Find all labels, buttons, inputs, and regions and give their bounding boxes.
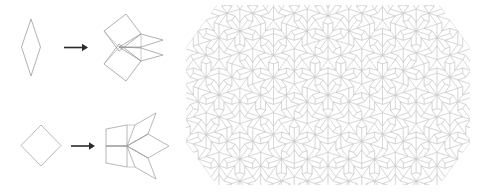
tiling-edge [442, 77, 450, 84]
tiling-edge [450, 44, 458, 55]
tiling-edge [261, 38, 269, 45]
tiling-edge [219, 117, 227, 128]
tiling-edge [362, 156, 375, 163]
tiling-edge [227, 174, 240, 181]
tiling-edge [294, 60, 302, 71]
tiling-edge [349, 119, 362, 126]
tiling-edge [416, 124, 424, 135]
tiling-edge [333, 77, 341, 84]
tiling-edge [382, 184, 395, 191]
tiling-edge [434, 0, 442, 9]
tiling-edge [437, 38, 445, 49]
tiling-edge [286, 166, 294, 177]
tiling-edge [437, 95, 442, 109]
tiling-edge [227, 128, 232, 142]
tiling-edge [299, 0, 307, 9]
tiling-edge [437, 16, 450, 23]
tiling-edge [403, 49, 408, 63]
tiling-edge [206, 135, 211, 149]
tiling-edge [349, 77, 362, 84]
tiling-edge [307, 181, 315, 192]
tiling-edge [227, 38, 235, 49]
tiling-edge [411, 110, 416, 124]
tiling-edge [421, 141, 429, 148]
tiling-edge [214, 46, 219, 60]
tiling-edge [341, 102, 349, 113]
tiling-edge [370, 34, 383, 41]
tiling-edge [357, 49, 362, 63]
tiling-edge [235, 88, 240, 102]
tiling-edge [294, 150, 299, 164]
tiling-edge [328, 16, 341, 23]
tiling-edge [328, 188, 336, 193]
fat-rhombus-decomposition [106, 113, 169, 179]
tiling-edge [274, 6, 279, 20]
tiling-edge [395, 188, 403, 193]
tiling-edge [382, 34, 395, 41]
tiling-edge [240, 20, 248, 31]
tiling-edge [253, 13, 261, 24]
tiling-edge [370, 16, 383, 23]
tiling-edge [336, 6, 349, 13]
tiling-edge [328, 24, 333, 38]
tiling-edge [235, 159, 240, 173]
tiling-edge [395, 152, 400, 166]
tiling-edge [341, 20, 349, 31]
tiling-edge [261, 117, 269, 124]
tiling-edge [274, 124, 282, 135]
fat-rhombus-source [21, 125, 61, 166]
tiling-edge [395, 110, 408, 117]
tiling-edge [390, 6, 403, 13]
tiling-edge [286, 84, 294, 95]
tiling-edge [390, 102, 395, 110]
tiling-edge [190, 102, 198, 109]
tiling-edge [341, 148, 349, 159]
tiling-edge [442, 20, 450, 31]
tiling-edge [240, 148, 248, 159]
tiling-edge [219, 46, 224, 60]
tiling-edge [274, 55, 287, 62]
tiling-edge [382, 135, 395, 142]
tiling-edge [344, 9, 349, 23]
tiling-edge [349, 88, 354, 102]
tiling-edge [437, 31, 450, 38]
tiling-edge [416, 53, 424, 64]
tiling-edge [302, 159, 307, 173]
tiling-edge [416, 137, 429, 144]
tiling-edge [269, 141, 274, 149]
tiling-edge [198, 102, 206, 113]
tiling-edge [437, 24, 442, 38]
tiling-edge [253, 117, 261, 128]
tiling-edge [458, 124, 466, 135]
tiling-edge [349, 152, 357, 159]
tiling-edge [463, 141, 471, 152]
tiling-edge [274, 86, 279, 100]
tiling-edge [248, 49, 253, 63]
tiling-edge [379, 166, 387, 177]
tiling-edge [274, 148, 282, 159]
penrose-tiling-tiles [185, 0, 470, 193]
tiling-edge [437, 141, 445, 152]
tiling-edge [206, 64, 211, 78]
tiling-edge [328, 84, 336, 95]
tiling-edge [349, 31, 354, 45]
tiling-edge [315, 184, 328, 191]
tiling-edge [299, 181, 307, 188]
tiling-edge [315, 20, 323, 31]
tiling-edge [450, 113, 455, 127]
tiling-edge [286, 60, 294, 71]
tiling-edge [266, 124, 274, 135]
tiling-edge [274, 181, 282, 192]
tiling-edge [453, 31, 458, 45]
tiling-edge [261, 188, 269, 193]
tiling-edge [227, 31, 240, 38]
tiling-edge [403, 71, 408, 85]
tiling-edge [458, 151, 463, 159]
tiling-edge [185, 49, 190, 63]
tiling-edge [328, 95, 333, 109]
tiling-edge [437, 113, 450, 120]
tiling-edge [185, 141, 193, 152]
tiling-edge [354, 113, 362, 120]
tiling-edge [349, 181, 357, 188]
tiling-edge [382, 77, 390, 88]
